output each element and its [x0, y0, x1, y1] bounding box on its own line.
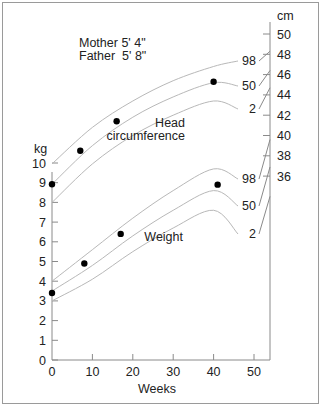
weight-data-point	[214, 181, 220, 187]
weight-data-point	[117, 231, 123, 237]
kg-tick-label: 6	[39, 235, 46, 249]
cm-tick-label: 50	[277, 28, 291, 42]
kg-tick-label: 10	[32, 157, 46, 171]
head-label-2: circumference	[107, 129, 186, 143]
left-axis-unit: kg	[34, 142, 47, 156]
kg-tick-label: 7	[39, 216, 46, 230]
cm-tick-label: 42	[277, 109, 291, 123]
week-tick-label: 50	[247, 365, 261, 379]
week-tick-label: 30	[166, 365, 180, 379]
head-data-point	[77, 148, 83, 154]
x-axis-title: Weeks	[138, 382, 176, 396]
weight-data-point	[49, 290, 55, 296]
weight-centile-label: 98	[242, 172, 256, 186]
head-data-point	[49, 181, 55, 187]
axes	[52, 22, 270, 360]
centile-leader-line	[259, 71, 270, 86]
week-tick-label: 10	[85, 365, 99, 379]
weight-centile-label: 50	[242, 199, 256, 213]
cm-tick-label: 40	[277, 129, 291, 143]
week-tick-label: 20	[126, 365, 140, 379]
centile-leader-line	[259, 196, 270, 234]
kg-tick-label: 8	[39, 196, 46, 210]
kg-tick-label: 3	[39, 294, 46, 308]
kg-tick-label: 1	[39, 334, 46, 348]
weight-centile-2	[52, 210, 238, 301]
head-data-point	[113, 118, 119, 124]
kg-tick-label: 4	[39, 275, 46, 289]
week-tick-label: 0	[49, 365, 56, 379]
weight-centile-label: 2	[249, 227, 256, 241]
centile-leader-line	[259, 51, 270, 61]
cm-tick-label: 46	[277, 68, 291, 82]
father-height: Father 5' 8"	[79, 49, 146, 63]
weight-data-point	[81, 260, 87, 266]
week-tick-label: 40	[207, 365, 221, 379]
growth-chart: Mother 5' 4" Father 5' 8" Head circumfer…	[0, 0, 323, 408]
head-centile-label: 2	[249, 102, 256, 116]
labels: Mother 5' 4" Father 5' 8" Head circumfer…	[32, 9, 294, 396]
head-centile-label: 50	[242, 79, 256, 93]
kg-tick-label: 2	[39, 314, 46, 328]
head-centile-label: 98	[242, 54, 256, 68]
kg-tick-label: 9	[39, 176, 46, 190]
cm-tick-label: 48	[277, 48, 291, 62]
cm-tick-label: 36	[277, 170, 291, 184]
head-data-point	[210, 79, 216, 85]
cm-tick-label: 44	[277, 88, 291, 102]
weight-centile-98	[52, 169, 238, 282]
kg-tick-label: 5	[39, 255, 46, 269]
kg-tick-label: 0	[39, 354, 46, 368]
cm-tick-label: 38	[277, 149, 291, 163]
head-label-1: Head	[155, 116, 185, 130]
weight-label: Weight	[144, 230, 183, 244]
mother-height: Mother 5' 4"	[79, 36, 146, 50]
centile-leader-line	[259, 88, 270, 109]
right-axis-unit: cm	[277, 9, 294, 23]
